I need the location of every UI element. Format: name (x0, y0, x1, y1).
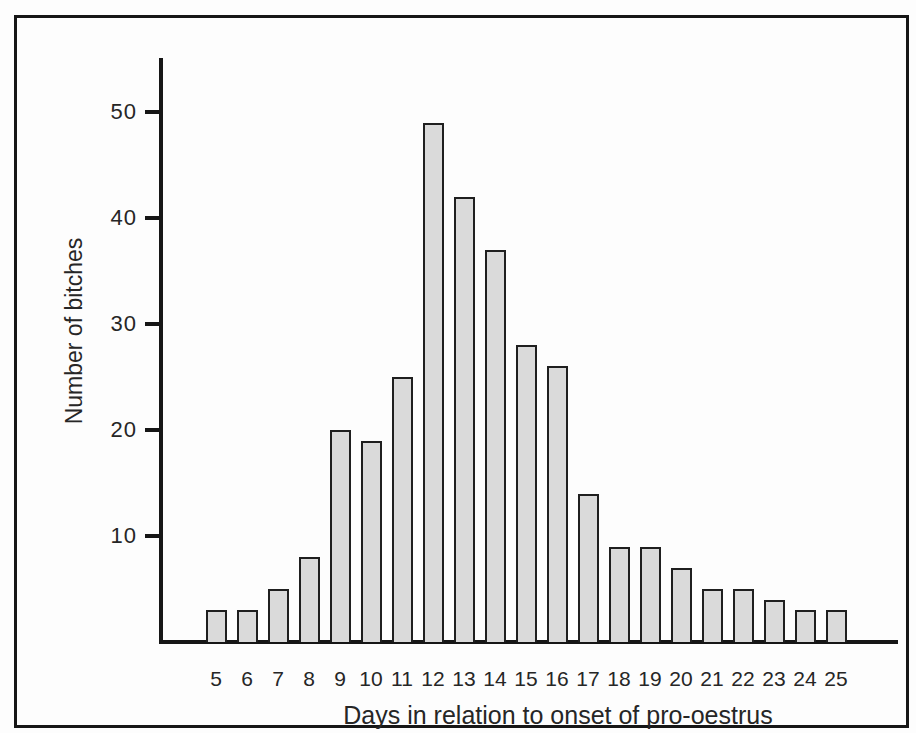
y-tick-mark-30 (145, 322, 159, 326)
y-tick-label-20: 20 (89, 418, 137, 442)
y-tick-label-30: 30 (89, 312, 137, 336)
bar-day-24 (795, 610, 816, 642)
y-tick-label-50: 50 (89, 100, 137, 124)
bar-day-5 (206, 610, 227, 642)
x-tick-label-8: 8 (293, 667, 325, 691)
x-axis-title: Days in relation to onset of pro-oestrus (338, 702, 778, 729)
bar-day-8 (299, 557, 320, 642)
bar-day-20 (671, 568, 692, 642)
y-axis-title: Number of bitches (61, 238, 88, 425)
x-tick-label-13: 13 (448, 667, 480, 691)
x-tick-label-11: 11 (386, 667, 418, 691)
x-tick-label-10: 10 (355, 667, 387, 691)
x-tick-label-15: 15 (510, 667, 542, 691)
bar-day-15 (516, 345, 537, 642)
bar-day-16 (547, 366, 568, 642)
bar-day-19 (640, 547, 661, 642)
bar-day-6 (237, 610, 258, 642)
x-tick-label-22: 22 (727, 667, 759, 691)
x-tick-label-14: 14 (479, 667, 511, 691)
x-tick-label-5: 5 (200, 667, 232, 691)
bar-day-9 (330, 430, 351, 642)
bar-day-12 (423, 123, 444, 642)
bar-day-25 (826, 610, 847, 642)
x-tick-label-19: 19 (634, 667, 666, 691)
y-tick-mark-20 (145, 428, 159, 432)
x-tick-label-18: 18 (603, 667, 635, 691)
y-tick-mark-40 (145, 216, 159, 220)
bar-day-11 (392, 377, 413, 642)
bar-day-7 (268, 589, 289, 642)
y-axis-line (159, 58, 163, 644)
x-tick-label-20: 20 (665, 667, 697, 691)
bar-day-21 (702, 589, 723, 642)
x-tick-label-23: 23 (758, 667, 790, 691)
bar-day-10 (361, 441, 382, 642)
bar-day-17 (578, 494, 599, 642)
bar-day-22 (733, 589, 754, 642)
bar-day-23 (764, 600, 785, 642)
y-tick-mark-10 (145, 534, 159, 538)
x-tick-label-7: 7 (262, 667, 294, 691)
x-tick-label-17: 17 (572, 667, 604, 691)
y-tick-label-10: 10 (89, 524, 137, 548)
x-tick-label-24: 24 (789, 667, 821, 691)
x-tick-label-21: 21 (696, 667, 728, 691)
x-tick-label-25: 25 (820, 667, 852, 691)
x-tick-label-9: 9 (324, 667, 356, 691)
x-tick-label-12: 12 (417, 667, 449, 691)
bar-day-13 (454, 197, 475, 642)
figure-canvas: Number of bitches 1020304050 56789101112… (0, 0, 916, 733)
y-tick-mark-50 (145, 110, 159, 114)
x-tick-label-16: 16 (541, 667, 573, 691)
x-tick-label-6: 6 (231, 667, 263, 691)
bar-day-18 (609, 547, 630, 642)
bar-day-14 (485, 250, 506, 642)
y-tick-label-40: 40 (89, 206, 137, 230)
figure-border-frame: Number of bitches 1020304050 56789101112… (14, 15, 909, 728)
